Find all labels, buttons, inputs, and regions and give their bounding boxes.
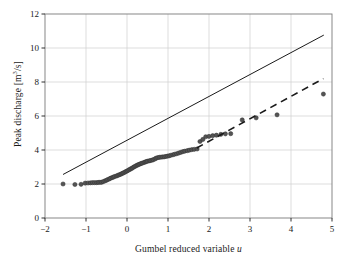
data-point [214, 133, 218, 137]
x-axis-tick-label: 1 [166, 224, 171, 234]
fitted-line-dashed [197, 79, 324, 148]
data-point [275, 113, 279, 117]
data-point [73, 182, 77, 186]
data-point [229, 132, 233, 136]
y-axis-tick-label: 12 [30, 9, 39, 19]
x-axis-tick-label: 0 [125, 224, 130, 234]
x-axis-tick-label: 5 [330, 224, 335, 234]
x-axis-tick-label: 2 [207, 224, 212, 234]
reference-line-solid [63, 35, 324, 174]
y-axis-tick-label: 2 [35, 179, 40, 189]
x-axis-tick-label: 4 [289, 224, 294, 234]
x-axis-tick-label: −1 [81, 224, 91, 234]
y-axis-tick-label: 0 [35, 213, 40, 223]
y-axis-tick-label: 8 [35, 77, 40, 87]
chart-figure: Peak discharge [m3/s] Gumbel reduced var… [0, 0, 350, 262]
data-point [61, 182, 65, 186]
y-axis-tick-label: 4 [35, 145, 40, 155]
x-axis-tick-label: 3 [248, 224, 253, 234]
scatter-series [61, 92, 326, 187]
y-axis-tick-label: 10 [30, 43, 40, 53]
data-point [79, 182, 83, 186]
y-axis-tick-label: 6 [35, 111, 40, 121]
data-point [321, 92, 325, 96]
x-axis-tick-label: −2 [40, 224, 50, 234]
scatter-plot-canvas: 024681012−2−1012345 [0, 0, 350, 262]
